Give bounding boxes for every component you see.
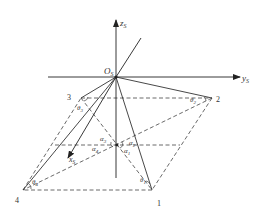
center-point: [116, 144, 119, 147]
theta4-label: θ4: [32, 178, 38, 187]
point-3-label: 3: [67, 93, 71, 102]
ray-to-1: [116, 77, 152, 190]
point-1-label: 1: [157, 199, 161, 208]
theta3-label: θ3: [77, 104, 83, 113]
coordinate-geometry-diagram: zS yS xS OS 1 2 3 4 θ1 θ2 θ3 θ4 α1 α2 α3…: [0, 0, 264, 224]
oblique-line-upper: [116, 38, 141, 77]
origin-label: OS: [104, 66, 114, 77]
angle-arcs: [29, 97, 206, 189]
alpha4-label: α4: [92, 145, 99, 154]
alpha2-label: α2: [129, 139, 136, 148]
x-axis-label: xS: [68, 155, 76, 165]
alpha3-label: α3: [100, 135, 107, 144]
alpha1-label: α1: [124, 147, 130, 156]
theta2-label: θ2: [190, 96, 196, 105]
z-axis-label: zS: [119, 18, 127, 29]
point-4-label: 4: [15, 196, 19, 205]
ray-to-3: [81, 77, 116, 98]
edge-2-1: [152, 98, 212, 190]
origin-point: [114, 75, 117, 78]
ray-to-2: [116, 77, 212, 98]
arc-alpha: [111, 142, 113, 147]
theta1-label: θ1: [140, 176, 146, 185]
origin-rays: [23, 77, 212, 190]
y-axis-label: yS: [241, 73, 249, 84]
point-2-label: 2: [216, 95, 220, 104]
